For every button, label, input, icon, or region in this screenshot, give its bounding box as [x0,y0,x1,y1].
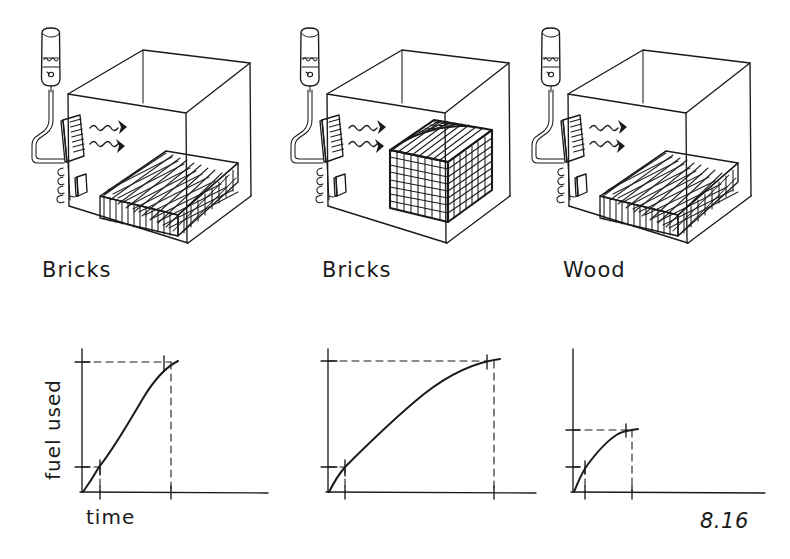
chamber-box [568,50,751,243]
material-bricks-stacked-cube [390,120,492,222]
fuel-curve [83,361,178,492]
chamber-box [68,50,251,243]
radiant-heater-icon [320,115,344,162]
x-axis-label: time [86,505,135,529]
chart-1: fuel used time [41,349,268,529]
heat-radiation-icon [590,120,627,153]
gas-cylinder-icon [542,28,561,92]
thermocouple-probe-icon [316,163,346,203]
radiant-heater-icon [561,115,585,162]
material-wood-spread [600,151,738,236]
thermocouple-probe-icon [57,163,87,203]
gas-feed-tube [291,90,323,163]
panel-1-apparatus: Bricks [32,28,251,282]
figure-8-16: Bricks [0,0,790,559]
panel-3-label: Wood [563,258,626,282]
panel-2-label: Bricks [322,258,392,282]
fuel-curve [329,359,500,492]
gas-feed-tube [532,90,564,163]
chart-3 [566,349,765,499]
x-axis [571,492,765,493]
radiant-heater-icon [61,115,85,162]
gas-cylinder-icon [301,28,320,92]
fuel-curve [574,429,638,492]
heat-radiation-icon [90,120,127,153]
heat-radiation-icon [349,120,386,153]
gas-feed-tube [32,90,64,163]
figure-number: 8.16 [700,509,749,533]
panel-1-label: Bricks [42,258,112,282]
y-axis-label: fuel used [41,379,65,480]
chart-2 [321,349,536,499]
panel-2-apparatus: Bricks [291,28,510,282]
x-axis [326,492,536,493]
x-axis [80,492,268,493]
panel-3-apparatus: Wood [532,28,751,282]
thermocouple-probe-icon [557,163,587,203]
material-bricks-spread [100,151,238,236]
gas-cylinder-icon [42,28,61,92]
